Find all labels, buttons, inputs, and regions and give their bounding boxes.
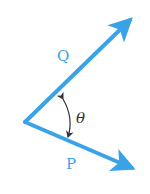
angle-theta-label: θ: [76, 109, 85, 127]
angle-arc: [63, 99, 70, 137]
vector-q-line: [25, 20, 130, 122]
vector-diagram: Q P θ: [0, 0, 150, 194]
vector-q-label: Q: [57, 47, 69, 65]
vector-p-line: [25, 122, 132, 168]
vector-p-label: P: [66, 155, 76, 173]
